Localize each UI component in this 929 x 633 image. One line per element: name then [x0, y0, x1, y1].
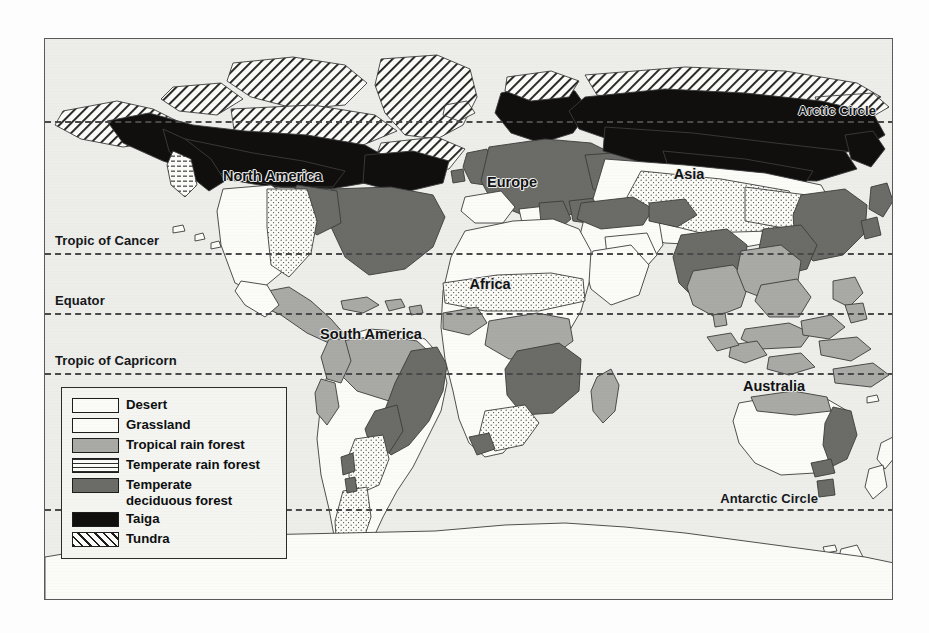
latitude-line-tropic-of-capricorn: [45, 373, 893, 375]
legend-label-taiga: Taiga: [126, 511, 159, 527]
legend-swatch-grassland-icon: [72, 418, 119, 433]
continent-label-south-america: South America: [320, 327, 410, 342]
latitude-line-arctic-circle: [45, 121, 893, 123]
legend-item-grassland: Grassland: [72, 417, 278, 434]
continent-label-asia: Asia: [659, 167, 719, 182]
legend-label-grassland: Grassland: [126, 417, 191, 433]
latitude-line-tropic-of-cancer: [45, 253, 893, 255]
legend-label-tundra: Tundra: [126, 531, 170, 547]
legend-label-temperate-deciduous-forest: Temperate deciduous forest: [126, 477, 232, 508]
map-legend: Desert Grassland Tropical rain forest Te…: [61, 387, 287, 559]
label-tropic-of-capricorn: Tropic of Capricorn: [55, 353, 177, 368]
legend-item-temperate-deciduous-forest: Temperate deciduous forest: [72, 477, 278, 508]
legend-swatch-tropical-rain-forest-icon: [72, 438, 119, 453]
legend-swatch-temperate-deciduous-forest-icon: [72, 478, 119, 493]
legend-item-desert: Desert: [72, 397, 278, 414]
world-biome-map: Arctic Circle Tropic of Cancer Equator T…: [44, 38, 893, 600]
legend-item-tundra: Tundra: [72, 531, 278, 548]
legend-swatch-taiga-icon: [72, 512, 119, 527]
legend-label-tropical-rain-forest: Tropical rain forest: [126, 437, 245, 453]
label-tropic-of-cancer: Tropic of Cancer: [55, 233, 159, 248]
legend-label-temperate-rain-forest: Temperate rain forest: [126, 457, 260, 473]
continent-label-australia: Australia: [729, 379, 819, 394]
legend-item-temperate-rain-forest: Temperate rain forest: [72, 457, 278, 474]
legend-item-tropical-rain-forest: Tropical rain forest: [72, 437, 278, 454]
label-antarctic-circle: Antarctic Circle: [720, 491, 818, 506]
legend-item-taiga: Taiga: [72, 511, 278, 528]
continent-label-north-america: North America: [223, 169, 313, 184]
scanned-page: Arctic Circle Tropic of Cancer Equator T…: [0, 0, 929, 633]
map-canvas: Arctic Circle Tropic of Cancer Equator T…: [45, 39, 892, 599]
continent-label-africa: Africa: [455, 277, 525, 292]
legend-swatch-temperate-rain-forest-icon: [72, 458, 119, 473]
label-equator: Equator: [55, 293, 105, 308]
continent-label-europe: Europe: [475, 175, 549, 190]
label-arctic-circle: Arctic Circle: [798, 103, 876, 118]
latitude-line-equator: [45, 313, 893, 315]
legend-swatch-tundra-icon: [72, 532, 119, 547]
legend-swatch-desert-icon: [72, 398, 119, 413]
legend-label-desert: Desert: [126, 397, 167, 413]
